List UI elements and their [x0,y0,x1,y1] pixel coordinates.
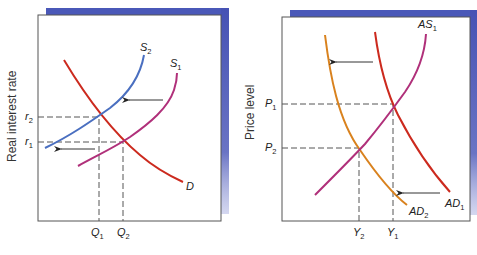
right-frame-shadow-right [470,10,477,215]
tick-r1: r1 [25,135,33,150]
diagram-canvas: Real interest rate S2 S1 D r2 r1 Q1 Q2 P… [0,0,477,255]
tick-y2: Y2 [353,226,365,241]
left-panel-loanable-funds: Real interest rate S2 S1 D r2 r1 Q1 Q2 [5,8,229,241]
right-panel-ad-as: Price level AS1 AD1 AD2 P1 P2 Y2 Y1 [243,10,477,241]
tick-p1: P1 [265,97,277,112]
tick-r2: r2 [25,110,33,125]
label-d: D [186,180,194,192]
left-frame-shadow-right [221,8,229,214]
right-plot-area [282,17,470,221]
tick-q1: Q1 [91,226,104,241]
left-y-axis-title: Real interest rate [5,70,19,162]
tick-q2: Q2 [117,226,130,241]
right-y-axis-title: Price level [243,85,257,140]
tick-p2: P2 [265,141,277,156]
tick-y1: Y1 [387,226,399,241]
